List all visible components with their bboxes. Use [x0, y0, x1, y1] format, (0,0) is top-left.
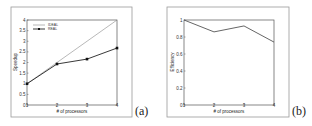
efficiency-series-line — [184, 20, 274, 42]
x-axis-title-b: # of processors — [214, 109, 246, 114]
data-point-marker — [116, 47, 119, 50]
real-series-line — [27, 48, 117, 84]
y-tick-label: 1 — [23, 81, 26, 86]
data-point-marker — [86, 58, 89, 61]
y-tick-label: 4 — [23, 18, 26, 23]
plot-area-b — [184, 20, 274, 105]
legend-real-marker-icon — [38, 28, 40, 30]
y-tick-label: 0.5 — [19, 92, 26, 97]
figure: 00.511.522.533.54 1234 # of processors S… — [0, 0, 312, 126]
y-tick-label: 0.6 — [176, 52, 183, 57]
y-axis-title-a: Speedup — [13, 53, 18, 72]
legend-real-label: REAL — [48, 27, 57, 31]
plot-area-a — [27, 20, 117, 105]
legend: IDEAL REAL — [33, 23, 58, 31]
panel-b-frame — [167, 7, 289, 117]
y-tick-label: 0.4 — [176, 69, 183, 74]
y-axis-title-b: Efficiency — [170, 52, 175, 72]
x-tick-label: 4 — [273, 103, 276, 108]
data-point-marker — [26, 82, 29, 85]
y-tick-label: 2 — [23, 60, 26, 65]
x-tick-label: 4 — [116, 103, 119, 108]
efficiency-chart: 00.20.40.60.81 1234 # of processors Effi… — [167, 7, 306, 118]
y-tick-label: 1.5 — [19, 71, 26, 76]
y-tick-label: 1 — [180, 18, 183, 23]
data-point-marker — [56, 63, 59, 66]
panel-label-b: (b) — [292, 104, 306, 118]
y-tick-label: 3.5 — [19, 28, 26, 33]
x-axis-title-a: # of processors — [57, 109, 89, 114]
panel-label-a: (a) — [135, 104, 148, 118]
speedup-chart: 00.511.522.533.54 1234 # of processors S… — [11, 7, 148, 118]
y-tick-label: 2.5 — [19, 49, 26, 54]
y-tick-label: 0.8 — [176, 35, 183, 40]
y-tick-label: 0.2 — [176, 86, 183, 91]
y-tick-label: 3 — [23, 39, 26, 44]
ideal-series-line — [27, 20, 117, 84]
